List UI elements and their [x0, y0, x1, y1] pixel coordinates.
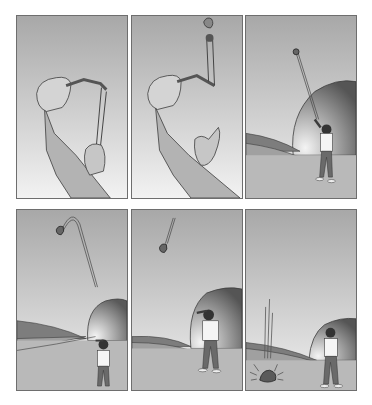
panel-2-slingshot-released: Slingshot released, projectile launched …: [131, 15, 243, 199]
projectile-rock: [160, 244, 168, 252]
panel-4-rock-arcs: Projectile arcs over and starts falling …: [16, 209, 128, 391]
panel-5-illustration: [132, 210, 242, 390]
storyboard-figure: Arm holding a slingshot, elastic pulled …: [0, 0, 372, 405]
panel-3-man-shoots: Man fires slingshot skyward beside a lar…: [245, 15, 357, 199]
panel-1-slingshot-drawn: Arm holding a slingshot, elastic pulled …: [16, 15, 128, 199]
panel-4-illustration: [17, 210, 127, 390]
pouch: [206, 34, 214, 42]
panel-2-illustration: [132, 16, 242, 198]
panel-6-rock-lands: Projectile crashes to ground near the ma…: [245, 209, 357, 391]
panel-6-illustration: [246, 210, 356, 390]
projectile-rock: [293, 49, 299, 55]
pulling-hand: [84, 144, 105, 175]
panel-1-illustration: [17, 16, 127, 198]
projectile-rock: [56, 226, 64, 234]
panel-5-man-watches: Man shades eyes watching the projectile …: [131, 209, 243, 391]
panel-3-illustration: [246, 16, 356, 198]
